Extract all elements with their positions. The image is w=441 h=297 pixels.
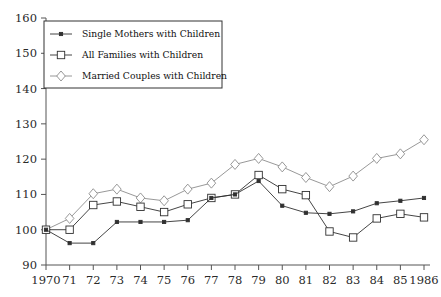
x-tick-label: 72 [86, 273, 101, 287]
data-point-marker [372, 153, 381, 163]
x-tick-label: 81 [299, 273, 314, 287]
y-tick-label: 130 [15, 117, 37, 131]
data-point-marker [399, 199, 402, 202]
data-point-marker [422, 196, 425, 199]
data-point-marker [304, 211, 307, 214]
x-tick-label: 74 [133, 273, 148, 287]
data-point-marker [326, 228, 333, 235]
x-tick-label: 78 [228, 273, 243, 287]
data-point-marker [90, 201, 97, 208]
x-tick-label: 1970 [31, 273, 60, 287]
legend-item-label-0: Single Mothers with Children [82, 28, 220, 39]
x-tick-label: 84 [369, 273, 384, 287]
data-point-marker [255, 171, 262, 178]
data-point-marker [278, 162, 287, 172]
x-tick-label: 76 [180, 273, 195, 287]
data-point-marker [325, 182, 334, 192]
legend-item-label-1: All Families with Children [81, 49, 203, 60]
series-layer [42, 135, 429, 245]
y-axis: 90100110120130140150160 [15, 11, 46, 272]
y-tick-label: 110 [15, 187, 37, 201]
y-tick-label: 90 [22, 258, 37, 272]
data-point-marker [397, 210, 404, 217]
data-point-marker [163, 220, 166, 223]
x-axis: 19707172737475767778798081828384851986 [31, 265, 438, 287]
data-point-marker [113, 184, 122, 194]
data-point-marker [92, 242, 95, 245]
x-tick-label: 77 [204, 273, 219, 287]
series-0 [44, 179, 425, 244]
data-point-marker [210, 196, 213, 199]
data-point-marker [186, 219, 189, 222]
data-point-marker [257, 179, 260, 182]
line-chart: 90100110120130140150160 1970717273747576… [0, 0, 441, 297]
data-point-marker [420, 214, 427, 221]
data-point-marker [302, 191, 309, 198]
data-point-marker [233, 193, 236, 196]
data-point-marker [207, 178, 216, 188]
data-point-marker [139, 220, 142, 223]
data-point-marker [349, 171, 358, 181]
x-tick-label: 80 [275, 273, 290, 287]
y-tick-label: 150 [15, 46, 37, 60]
x-tick-label: 83 [346, 273, 361, 287]
x-tick-label: 1986 [409, 273, 438, 287]
data-point-marker [115, 220, 118, 223]
data-point-marker [231, 159, 240, 169]
data-point-marker [302, 172, 311, 182]
y-tick-label: 160 [15, 11, 37, 25]
x-tick-label: 79 [251, 273, 266, 287]
y-tick-label: 120 [15, 152, 37, 166]
data-point-marker [160, 196, 169, 206]
data-point-marker [420, 135, 429, 145]
data-point-marker [183, 184, 192, 194]
data-point-marker [136, 193, 145, 203]
data-point-marker [281, 204, 284, 207]
data-point-marker [113, 198, 120, 205]
data-point-marker [57, 51, 64, 58]
chart-container: 90100110120130140150160 1970717273747576… [0, 0, 441, 297]
data-point-marker [352, 210, 355, 213]
x-tick-label: 82 [322, 273, 337, 287]
data-point-marker [349, 234, 356, 241]
series-2 [42, 135, 429, 235]
data-point-marker [328, 212, 331, 215]
chart-legend: Single Mothers with ChildrenAll Families… [44, 21, 227, 88]
data-point-marker [66, 226, 73, 233]
y-tick-label: 100 [15, 223, 37, 237]
data-point-marker [44, 228, 47, 231]
series-1 [42, 171, 427, 241]
data-point-marker [137, 203, 144, 210]
legend-item-label-2: Married Couples with Children [82, 70, 227, 81]
data-point-marker [396, 149, 405, 159]
data-point-marker [68, 242, 71, 245]
x-tick-label: 73 [110, 273, 125, 287]
data-point-marker [373, 215, 380, 222]
data-point-marker [184, 201, 191, 208]
x-tick-label: 75 [157, 273, 172, 287]
y-tick-label: 140 [15, 82, 37, 96]
data-point-marker [160, 208, 167, 215]
data-point-marker [254, 153, 263, 163]
x-tick-label: 85 [393, 273, 408, 287]
data-point-marker [279, 185, 286, 192]
x-tick-label: 71 [62, 273, 77, 287]
data-point-marker [375, 202, 378, 205]
data-point-marker [59, 32, 62, 35]
